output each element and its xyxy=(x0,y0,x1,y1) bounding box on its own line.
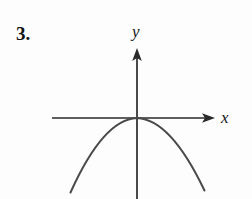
figure-page: 3. y x xyxy=(0,0,252,199)
x-axis-label: x xyxy=(221,109,229,127)
y-axis-label: y xyxy=(132,23,140,41)
coordinate-plane-figure xyxy=(0,0,252,199)
